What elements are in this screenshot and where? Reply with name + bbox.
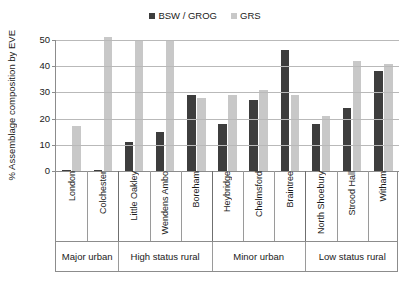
bar (197, 98, 206, 171)
bar (353, 61, 362, 171)
bars-layer (56, 40, 399, 171)
category-label-wendens-ambo: Wendens Ambo (150, 171, 181, 241)
legend-swatch-icon (149, 13, 155, 19)
category-separator (368, 171, 369, 241)
legend-swatch-icon (231, 13, 237, 19)
legend-entry-2: GRS (231, 10, 261, 21)
bar (374, 71, 383, 171)
group-separator (212, 242, 213, 271)
group-separator (118, 242, 119, 271)
bar (156, 132, 165, 171)
category-label-london: London (56, 171, 87, 241)
gridline-50 (56, 40, 399, 41)
category-label-text: Little Oakley (129, 171, 139, 224)
y-tick-label-50: 50 (39, 35, 50, 45)
bar (104, 37, 113, 171)
group-label-band: Major urbanHigh status ruralMinor urbanL… (55, 242, 398, 272)
bar-chart: BSW / GROGGRS % Assemblage composition b… (0, 0, 410, 286)
gridline-10 (56, 145, 399, 146)
bar (135, 40, 144, 171)
category-label-braintree: Braintree (274, 171, 305, 241)
bar-group (368, 40, 399, 171)
y-tick-label-0: 0 (45, 166, 50, 176)
category-label-strood-hall: Strood Hall (337, 171, 368, 241)
y-tick-mark-40 (52, 66, 56, 67)
bar-group (305, 40, 336, 171)
bar-group (212, 40, 243, 171)
category-label-text: Strood Hall (347, 171, 357, 219)
y-tick-label-10: 10 (39, 140, 50, 150)
chart-legend: BSW / GROGGRS (0, 10, 410, 21)
group-boundary-separator (212, 171, 213, 241)
bar (228, 95, 237, 171)
category-label-little-oakley: Little Oakley (118, 171, 149, 241)
gridline-40 (56, 66, 399, 67)
bar-group (87, 40, 118, 171)
bar-group (181, 40, 212, 171)
y-tick-label-40: 40 (39, 61, 50, 71)
group-boundary-separator (118, 171, 119, 241)
bar (312, 124, 321, 171)
category-label-boreham: Boreham (181, 171, 212, 241)
bar-group (150, 40, 181, 171)
bar (72, 126, 81, 171)
category-separator (274, 171, 275, 241)
bar (249, 100, 258, 171)
category-label-north-shoebury: North Shoebury (305, 171, 336, 241)
category-label-text: Braintree (285, 171, 295, 211)
y-axis-title-text: % Assemblage composition by EVE (6, 30, 17, 181)
bar-group (337, 40, 368, 171)
legend-label: BSW / GROG (158, 10, 217, 21)
group-label-low-status-rural: Low status rural (305, 242, 399, 271)
category-label-witham: Witham (368, 171, 399, 241)
category-label-text: North Shoebury (316, 171, 326, 237)
group-label-high-status-rural: High status rural (118, 242, 212, 271)
bar-group (56, 40, 87, 171)
bar (343, 108, 352, 171)
category-label-text: Wendens Ambo (160, 171, 170, 237)
legend-entry-1: BSW / GROG (149, 10, 217, 21)
group-label-minor-urban: Minor urban (212, 242, 306, 271)
category-separator (337, 171, 338, 241)
y-tick-label-30: 30 (39, 88, 50, 98)
category-label-chelmsford: Chelmsford (243, 171, 274, 241)
gridline-30 (56, 92, 399, 93)
category-label-text: Colchester (98, 171, 108, 217)
bar-group (243, 40, 274, 171)
legend-label: GRS (240, 10, 261, 21)
y-tick-mark-20 (52, 119, 56, 120)
group-label-major-urban: Major urban (56, 242, 118, 271)
category-label-heybridge: Heybridge (212, 171, 243, 241)
y-tick-mark-30 (52, 92, 56, 93)
bar (281, 50, 290, 171)
bar (291, 95, 300, 171)
category-label-text: Boreham (191, 171, 201, 211)
category-separator (150, 171, 151, 241)
bar-group (274, 40, 305, 171)
y-axis-title: % Assemblage composition by EVE (6, 40, 17, 171)
bar-group (118, 40, 149, 171)
category-label-text: London (67, 171, 77, 204)
category-label-band: LondonColchesterLittle OakleyWendens Amb… (55, 171, 398, 242)
category-label-text: Heybridge (222, 171, 232, 215)
category-separator (181, 171, 182, 241)
group-separator (305, 242, 306, 271)
category-label-text: Witham (378, 171, 388, 205)
group-boundary-separator (305, 171, 306, 241)
bar (125, 142, 134, 171)
y-tick-mark-10 (52, 145, 56, 146)
bar (384, 64, 393, 171)
bar (166, 40, 175, 171)
y-tick-mark-50 (52, 40, 56, 41)
category-label-colchester: Colchester (87, 171, 118, 241)
category-separator (243, 171, 244, 241)
bar (218, 124, 227, 171)
gridline-20 (56, 119, 399, 120)
category-label-text: Chelmsford (254, 171, 264, 220)
y-tick-label-20: 20 (39, 114, 50, 124)
bar (187, 95, 196, 171)
bar (322, 116, 331, 171)
plot-area: 01020304050 (55, 40, 399, 172)
category-separator (87, 171, 88, 241)
bar (259, 90, 268, 171)
